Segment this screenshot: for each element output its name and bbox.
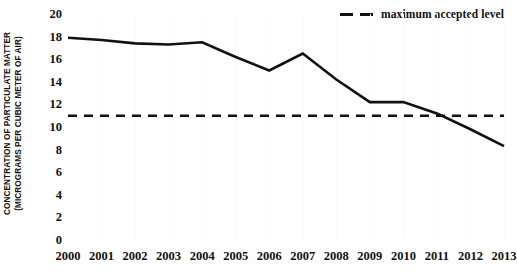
x-axis-tick-2006: 2006 — [257, 250, 282, 263]
x-axis-tick-2001: 2001 — [89, 250, 114, 263]
y-axis-tick-labels: 02468101214161820 — [26, 0, 66, 246]
y-axis-tick-8: 8 — [56, 143, 62, 156]
x-axis-tick-2005: 2005 — [223, 250, 248, 263]
x-axis-tick-2004: 2004 — [190, 250, 215, 263]
x-axis-tick-2012: 2012 — [458, 250, 483, 263]
plot-area — [68, 14, 504, 240]
x-axis-tick-2010: 2010 — [391, 250, 416, 263]
y-axis-tick-2: 2 — [56, 211, 62, 224]
y-axis-title: CONCENTRATION OF PARTICULATE MATTER (MIC… — [0, 0, 26, 246]
chart-title-clipped — [0, 0, 512, 1]
gridline-2013 — [504, 14, 505, 240]
x-axis-tick-2009: 2009 — [357, 250, 382, 263]
y-axis-tick-14: 14 — [50, 76, 63, 89]
x-axis-tick-2002: 2002 — [123, 250, 148, 263]
x-axis-tick-labels: 2000200120022003200420052006200720082009… — [68, 246, 504, 271]
y-axis-tick-10: 10 — [50, 121, 63, 134]
data-series-line — [68, 38, 504, 146]
x-axis-tick-2013: 2013 — [492, 250, 517, 263]
y-axis-tick-4: 4 — [56, 189, 62, 202]
y-axis-tick-6: 6 — [56, 166, 62, 179]
x-axis-tick-2003: 2003 — [156, 250, 181, 263]
x-axis-tick-2000: 2000 — [56, 250, 81, 263]
y-axis-tick-0: 0 — [56, 234, 62, 247]
y-axis-title-line-1: CONCENTRATION OF PARTICULATE MATTER — [3, 32, 14, 215]
y-axis-tick-20: 20 — [50, 8, 63, 21]
y-axis-tick-16: 16 — [50, 53, 63, 66]
y-axis-tick-12: 12 — [50, 98, 63, 111]
y-axis-title-line-2: (MICROGRAMS PER CUBIC METER OF AIR) — [13, 32, 24, 215]
x-axis-tick-2008: 2008 — [324, 250, 349, 263]
x-axis-tick-2011: 2011 — [425, 250, 449, 263]
x-axis-tick-2007: 2007 — [290, 250, 315, 263]
y-axis-tick-18: 18 — [50, 30, 63, 43]
series-canvas — [68, 14, 504, 240]
